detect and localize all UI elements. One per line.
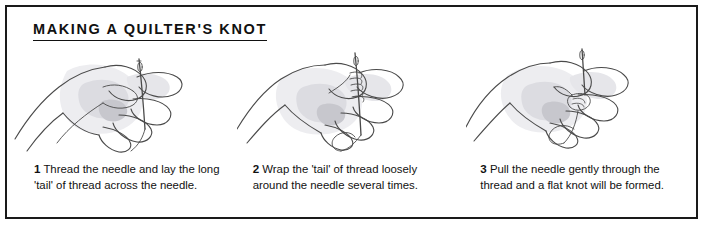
step-2-drawing [237, 43, 467, 155]
step-2-text: Wrap the 'tail' of thread loosely around… [253, 163, 418, 191]
step-3-drawing [466, 43, 696, 155]
step-3-text: Pull the needle gently through the threa… [480, 163, 664, 191]
step-1-drawing [7, 43, 237, 155]
hand-pulling-needle-illustration [466, 43, 696, 155]
step-3-caption: 3 Pull the needle gently through the thr… [480, 161, 670, 193]
step-1-text: Thread the needle and lay the long 'tail… [34, 163, 219, 191]
step-1: 1 Thread the needle and lay the long 'ta… [7, 43, 237, 215]
step-2: 2 Wrap the 'tail' of thread loosely arou… [237, 43, 467, 215]
page-title: MAKING A QUILTER'S KNOT [33, 21, 267, 41]
instruction-card: MAKING A QUILTER'S KNOT [0, 0, 703, 231]
hand-wrapping-thread-illustration [237, 43, 467, 155]
step-1-caption: 1 Thread the needle and lay the long 'ta… [34, 161, 224, 193]
step-3: 3 Pull the needle gently through the thr… [466, 43, 696, 215]
steps-row: 1 Thread the needle and lay the long 'ta… [7, 43, 696, 215]
hand-threading-needle-illustration [7, 43, 237, 155]
bordered-panel: MAKING A QUILTER'S KNOT [5, 5, 698, 219]
step-2-caption: 2 Wrap the 'tail' of thread loosely arou… [253, 161, 443, 193]
